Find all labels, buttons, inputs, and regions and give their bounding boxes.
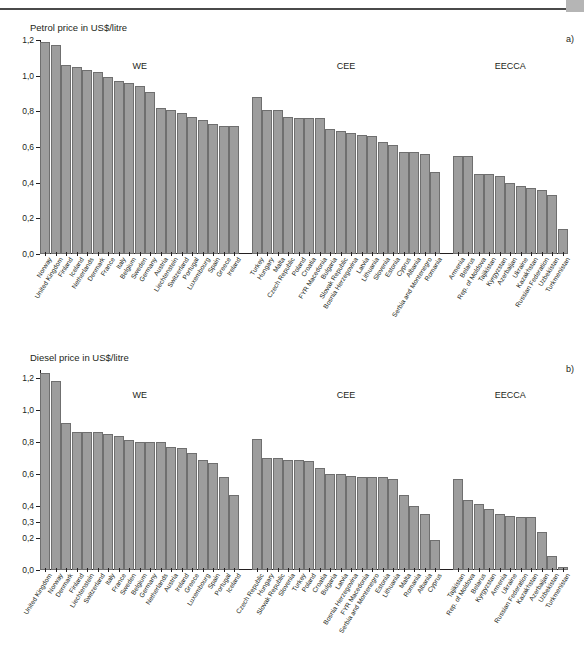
chart-title-petrol: Petrol price in US$/litre (30, 22, 127, 33)
bar (177, 113, 187, 254)
y-axis-tick (36, 378, 40, 379)
page-corner-marker (566, 0, 584, 12)
x-axis-tick (203, 252, 204, 256)
bar (252, 97, 262, 254)
bar (399, 495, 409, 570)
bar (103, 434, 113, 570)
x-axis-tick (383, 568, 384, 572)
bar (51, 381, 61, 570)
group-label-we: WE (132, 61, 147, 71)
bar (262, 110, 272, 254)
y-axis-tick (36, 442, 40, 443)
chart-panel-petrol: Petrol price in US$/litre a) 0,00,20,40,… (0, 22, 584, 332)
x-axis-tick (425, 568, 426, 572)
bar (229, 495, 239, 570)
y-axis-tick-label: 0,8 (22, 437, 34, 447)
x-axis-tick (500, 568, 501, 572)
x-axis-tick (98, 568, 99, 572)
x-axis-tick (542, 568, 543, 572)
bar (399, 152, 409, 254)
bar (357, 135, 367, 254)
bar (537, 532, 547, 570)
y-axis-tick (36, 147, 40, 148)
bar (346, 133, 356, 254)
bar (294, 118, 304, 254)
bar (430, 540, 440, 570)
bar (325, 129, 335, 254)
bar (273, 110, 283, 254)
bar (409, 506, 419, 570)
bar (409, 152, 419, 254)
y-axis-tick-label: 0,6 (22, 469, 34, 479)
bar (526, 188, 536, 254)
bar (114, 81, 124, 254)
x-axis-tick (203, 568, 204, 572)
bar (166, 447, 176, 570)
x-axis-tick (224, 568, 225, 572)
bar (187, 453, 197, 570)
bar (82, 432, 92, 570)
bar (252, 439, 262, 570)
x-axis-tick (479, 568, 480, 572)
x-axis-tick (341, 568, 342, 572)
x-axis-tick (362, 568, 363, 572)
plot-area-diesel: 0,00,20,30,40,60,81,01,2 (40, 370, 568, 570)
bar (505, 183, 515, 254)
bar (430, 172, 440, 254)
bar (346, 476, 356, 570)
bar (357, 477, 367, 570)
y-axis-tick-label: 0,0 (22, 565, 34, 575)
x-axis-tick (56, 252, 57, 256)
bar (40, 373, 50, 570)
group-label-eecca: EECCA (495, 390, 526, 400)
bar (135, 86, 145, 254)
x-axis-tick (479, 252, 480, 256)
bar (304, 118, 314, 254)
x-axis-tick (341, 252, 342, 256)
x-axis-tick (458, 252, 459, 256)
bar (505, 516, 515, 570)
x-axis-tick (257, 568, 258, 572)
x-axis-tick (383, 252, 384, 256)
bar (145, 442, 155, 570)
bar (537, 190, 547, 254)
bar (124, 83, 134, 254)
x-axis-tick (458, 568, 459, 572)
bar (453, 479, 463, 570)
bar (516, 517, 526, 570)
y-axis-tick (36, 40, 40, 41)
y-axis-tick (36, 538, 40, 539)
x-axis-tick (140, 252, 141, 256)
x-axis-tick (563, 252, 564, 256)
y-axis-tick (36, 570, 40, 571)
bar (156, 108, 166, 254)
group-label-we: WE (132, 390, 147, 400)
bar (495, 514, 505, 570)
y-axis-tick (36, 474, 40, 475)
y-axis-tick-label: 0,4 (22, 178, 34, 188)
bar (420, 514, 430, 570)
x-axis-tick (404, 252, 405, 256)
bar (367, 136, 377, 254)
y-axis-tick-label: 1,2 (22, 35, 34, 45)
x-axis-tick (161, 568, 162, 572)
y-axis-tick (36, 183, 40, 184)
bar (294, 460, 304, 570)
x-axis-tick (404, 568, 405, 572)
bar (474, 174, 484, 254)
x-axis-tick (77, 568, 78, 572)
bar (51, 45, 61, 254)
bar-series-diesel (40, 370, 568, 570)
bar (40, 42, 50, 254)
y-axis-tick-label: 1,2 (22, 373, 34, 383)
y-axis-tick-label: 0,8 (22, 106, 34, 116)
y-axis-tick-label: 0,4 (22, 501, 34, 511)
bar (484, 174, 494, 254)
x-axis-tick (299, 568, 300, 572)
y-axis-tick-label: 0,0 (22, 249, 34, 259)
bar (72, 67, 82, 254)
bar (208, 463, 218, 570)
bar (474, 504, 484, 570)
plot-area-petrol: 0,00,20,40,60,81,01,2 (40, 40, 568, 254)
x-axis-tick (182, 568, 183, 572)
